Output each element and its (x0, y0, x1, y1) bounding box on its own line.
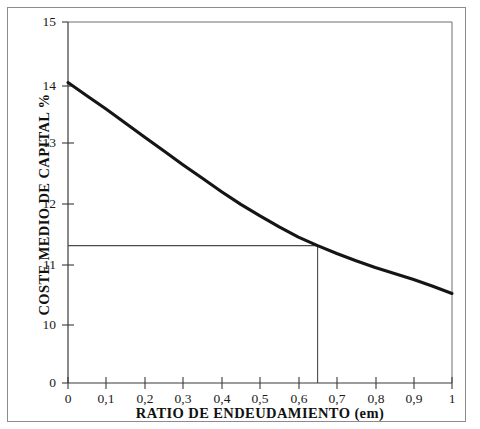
y-tick-label-0: 0 (14, 376, 56, 390)
cost-of-capital-curve-main (68, 83, 452, 294)
chart-figure: 0 10 11 12 13 14 15 0 0,1 0,2 0,3 0,4 0,… (0, 0, 480, 429)
x-tick-label-0-4: 0,4 (214, 392, 231, 406)
y-tick-label-15: 15 (14, 15, 56, 29)
x-tick-label-0-5: 0,5 (252, 392, 269, 406)
x-tick-label-0-2: 0,2 (137, 392, 154, 406)
x-tick-label-1: 1 (449, 392, 456, 406)
plot-canvas (0, 0, 480, 429)
x-axis-title: RATIO DE ENDEUDAMIENTO (em) (68, 405, 452, 422)
x-tick-label-0-7: 0,7 (329, 392, 346, 406)
x-tick-label-0-8: 0,8 (368, 392, 385, 406)
x-tick-label-0-6: 0,6 (291, 392, 308, 406)
x-tick-label-0-3: 0,3 (175, 392, 192, 406)
y-axis-title: COSTE MEDIO DE CAPITAL % (36, 55, 53, 355)
x-tick-label-0-1: 0,1 (98, 392, 115, 406)
x-tick-label-0-9: 0,9 (406, 392, 423, 406)
x-tick-label-0: 0 (65, 392, 72, 406)
